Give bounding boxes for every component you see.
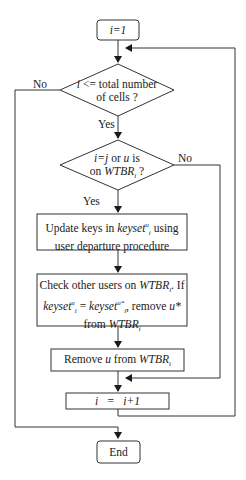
end-node: End: [97, 446, 140, 459]
check-users-box: Check other users on WTBRi. If keysetui …: [37, 279, 187, 337]
yes-label-1: Yes: [98, 118, 115, 130]
start-node: i=1: [97, 24, 139, 37]
no-label-1: No: [33, 78, 47, 90]
remove-u-box: Remove u from WTBRi: [51, 353, 184, 371]
decision-on-wtbr: i=j or u is on WTBRi ?: [60, 152, 174, 183]
yes-label-2: Yes: [83, 195, 100, 207]
no-label-2: No: [178, 152, 192, 164]
update-keys-box: Update keys in keysetui using user depar…: [37, 219, 187, 253]
increment-box: i = i+1: [66, 395, 169, 408]
decision-total-cells: i <= total number of cells ?: [60, 78, 174, 104]
